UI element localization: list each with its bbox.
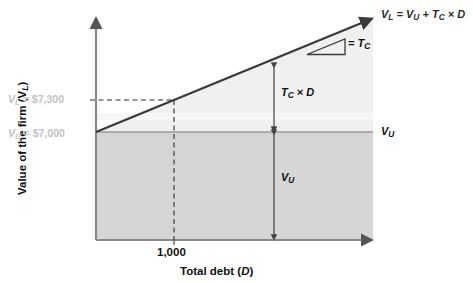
levered-value-equation-label: VL = VU + TC × D <box>381 9 465 21</box>
slope-label: = TC <box>348 38 370 50</box>
x-axis-title: Total debt (D) <box>180 266 253 278</box>
unlevered-value-area <box>96 132 373 240</box>
y-tick-label-vu: VU = $7,000 <box>8 128 65 141</box>
unlevered-value-label-subscript: U <box>288 175 294 185</box>
vu-line-label: VU <box>381 126 394 138</box>
x-tick-label-1000: 1,000 <box>157 247 186 259</box>
y-tick-label-vl: VL = $7,300 <box>8 94 64 107</box>
unlevered-value-label: VU <box>281 172 294 184</box>
vu-line-label-subscript: U <box>388 129 394 139</box>
firm-value-chart <box>0 0 473 283</box>
tax-shield-label: TC × D <box>281 87 314 99</box>
slope-label-subscript: C <box>364 41 370 51</box>
y-axis-title-subscript: L <box>20 86 30 91</box>
